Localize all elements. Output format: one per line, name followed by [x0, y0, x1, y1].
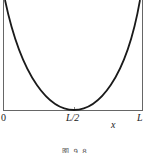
- tick-label-zero: 0: [1, 113, 6, 123]
- tick-label-L: L: [137, 113, 143, 123]
- diagram-canvas: [0, 0, 150, 153]
- tick-label-half-L: L/2: [66, 113, 79, 123]
- figure-caption: 图 9.8: [0, 146, 150, 153]
- u-shaped-curve: [5, 0, 140, 110]
- x-axis-label: x: [111, 120, 115, 130]
